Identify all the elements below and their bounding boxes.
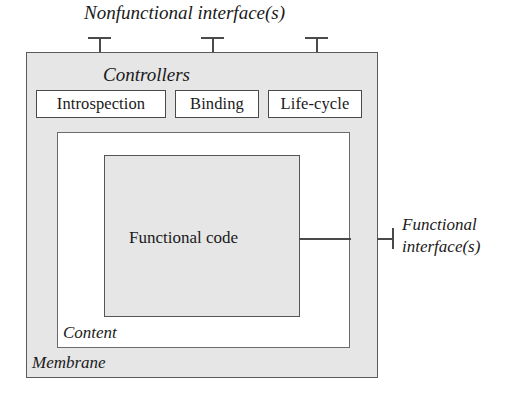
membrane-label: Membrane (32, 353, 106, 373)
controller-box-lifecycle[interactable]: Life-cycle (268, 90, 362, 118)
component-architecture-diagram: Nonfunctional interface(s) Controllers I… (0, 0, 521, 396)
functional-interface-stem (377, 238, 393, 240)
functional-interface-connector (299, 238, 351, 240)
controller-box-binding[interactable]: Binding (175, 90, 259, 118)
functional-code-label: Functional code (129, 228, 238, 248)
nonfunctional-interfaces-label: Nonfunctional interface(s) (84, 2, 285, 24)
functional-interface-tick-icon (392, 228, 394, 249)
content-label: Content (63, 323, 117, 343)
functional-interfaces-label-line1: Functional (402, 214, 480, 236)
functional-interfaces-label: Functional interface(s) (402, 214, 480, 258)
controllers-group-label: Controllers (103, 64, 190, 86)
functional-interfaces-label-line2: interface(s) (402, 236, 480, 258)
controller-box-introspection[interactable]: Introspection (36, 90, 166, 118)
